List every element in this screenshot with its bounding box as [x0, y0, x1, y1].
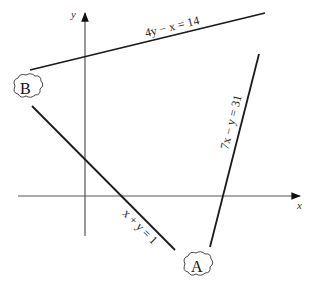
point-b-label: B: [20, 80, 31, 97]
point-a-label: A: [191, 258, 203, 275]
y-axis: y: [70, 8, 85, 236]
x-axis-label: x: [296, 199, 302, 211]
point-a-cloud: A: [184, 252, 213, 276]
y-axis-label: y: [70, 8, 76, 20]
line-x-plus-y-eq-1: x + y = 1: [32, 106, 175, 250]
coordinate-diagram: x y 4y − x = 14 x + y = 1 7x − y = 31 B …: [0, 0, 318, 284]
point-b-cloud: B: [14, 74, 43, 98]
line-7x-minus-y-eq-31: 7x − y = 31: [210, 54, 259, 247]
x-axis: x: [18, 196, 302, 211]
line-label-x-plus-y: x + y = 1: [120, 206, 161, 247]
line-4y-minus-x-eq-14: 4y − x = 14: [30, 13, 265, 70]
line-label-7x-minus-y: 7x − y = 31: [217, 93, 244, 150]
